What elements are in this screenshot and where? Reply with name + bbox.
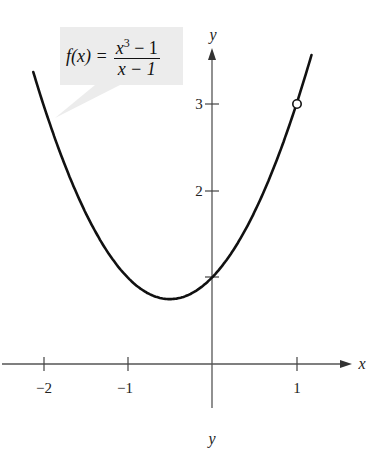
y-tick-label: 3 bbox=[195, 96, 203, 112]
x-tick-label: −1 bbox=[117, 380, 133, 396]
numerator: x3 − 1 bbox=[114, 33, 160, 59]
function-curve bbox=[33, 55, 311, 299]
numerator-rest: − 1 bbox=[130, 38, 158, 58]
denominator: x − 1 bbox=[118, 59, 156, 79]
y-axis-label: y bbox=[207, 26, 217, 44]
callout-tail bbox=[55, 85, 120, 118]
fraction: x3 − 1 x − 1 bbox=[114, 33, 160, 79]
numerator-base: x bbox=[116, 38, 124, 58]
function-lhs: f(x) = bbox=[66, 46, 108, 67]
x-tick-label: 1 bbox=[293, 380, 301, 396]
x-axis-label: x bbox=[357, 355, 365, 372]
x-axis-arrow-icon bbox=[340, 360, 352, 368]
chart-canvas: −2 −1 1 2 3 x y y bbox=[0, 0, 368, 452]
y-tick-label: 2 bbox=[195, 183, 203, 199]
function-label: f(x) = x3 − 1 x − 1 bbox=[66, 33, 160, 79]
y-axis-arrow-icon bbox=[208, 48, 216, 60]
bottom-y-label: y bbox=[206, 430, 216, 448]
open-circle-hole bbox=[293, 100, 301, 108]
x-tick-label: −2 bbox=[36, 380, 52, 396]
